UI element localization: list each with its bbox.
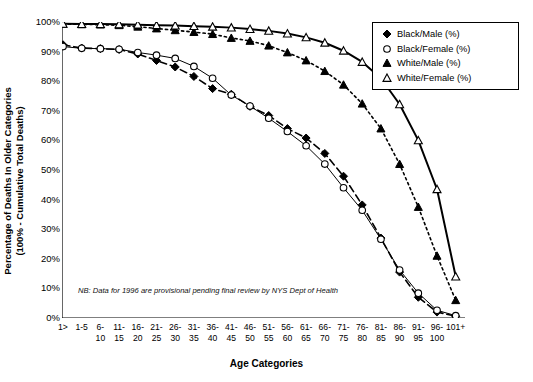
data-point-marker <box>153 22 161 29</box>
data-point-marker <box>97 45 104 52</box>
data-point-marker <box>135 49 142 56</box>
data-point-marker <box>415 290 422 297</box>
data-point-marker <box>228 92 235 99</box>
data-point-marker <box>115 22 123 28</box>
filled-diamond-icon <box>379 28 395 40</box>
data-point-marker <box>396 267 403 274</box>
data-point-marker <box>78 22 86 27</box>
legend-item-label: White/Female (%) <box>395 73 471 83</box>
data-point-marker <box>414 136 422 143</box>
legend-item: Black/Female (%) <box>379 42 514 57</box>
data-point-marker <box>359 207 366 214</box>
data-point-marker <box>62 43 66 50</box>
legend-item: White/Female (%) <box>379 71 514 86</box>
legend-item: White/Male (%) <box>379 56 514 71</box>
x-axis-tick-labels: 1>1-56-1011-1516-2021-2526-3031-3536-404… <box>0 322 533 356</box>
data-point-marker <box>452 312 459 318</box>
filled-triangle-icon <box>379 57 395 69</box>
y-axis-tick-label: 10% <box>26 283 60 293</box>
chart-note: NB: Data for 1996 are provisional pendin… <box>78 286 338 295</box>
data-point-marker <box>265 115 272 122</box>
legend-item-label: Black/Male (%) <box>395 29 460 39</box>
data-point-marker <box>378 236 385 243</box>
data-point-marker <box>190 72 198 80</box>
data-point-marker <box>134 22 142 28</box>
data-point-marker <box>396 160 404 167</box>
y-axis-tick-label: 30% <box>26 224 60 234</box>
data-point-marker <box>414 203 422 210</box>
open-circle-icon <box>379 43 395 55</box>
data-point-marker <box>302 56 310 63</box>
x-tick-line1: 101+ <box>441 322 471 333</box>
x-axis-title: Age Categories <box>0 358 533 369</box>
data-point-marker <box>433 185 441 192</box>
data-point-marker <box>283 48 291 55</box>
y-axis-tick-label: 90% <box>26 47 60 57</box>
data-point-marker <box>209 85 217 93</box>
chart-container: Percentage of Deaths In Older Categories… <box>0 0 533 382</box>
chart-legend: Black/Male (%)Black/Female (%)White/Male… <box>372 22 519 90</box>
y-axis-tick-label: 20% <box>26 254 60 264</box>
x-tick-line2: 100 <box>422 333 452 344</box>
data-point-marker <box>452 296 460 303</box>
data-point-marker <box>153 52 160 59</box>
y-axis-tick-label: 50% <box>26 165 60 175</box>
y-axis-tick-label: 60% <box>26 135 60 145</box>
legend-item-label: White/Male (%) <box>395 58 461 68</box>
data-point-marker <box>171 63 179 71</box>
y-axis-tick-label: 70% <box>26 106 60 116</box>
data-point-marker <box>434 307 441 314</box>
data-point-marker <box>209 75 216 82</box>
x-axis-tick-label: 101+ <box>441 322 471 333</box>
y-axis-tick-label: 40% <box>26 195 60 205</box>
y-axis-tick-label: 100% <box>26 17 60 27</box>
data-point-marker <box>358 58 366 65</box>
data-point-marker <box>322 161 329 168</box>
data-point-marker <box>247 103 254 110</box>
legend-item-label: Black/Female (%) <box>395 44 470 54</box>
y-axis-tick-label: 80% <box>26 76 60 86</box>
y-axis-title-line1: Percentage of Deaths In Older Categories <box>2 56 14 306</box>
data-point-marker <box>303 142 310 149</box>
data-point-marker <box>321 67 329 74</box>
data-point-marker <box>433 252 441 259</box>
data-point-marker <box>452 273 460 280</box>
data-point-marker <box>78 45 85 52</box>
open-triangle-icon <box>379 72 395 84</box>
data-point-marker <box>191 63 198 70</box>
legend-item: Black/Male (%) <box>379 27 514 42</box>
data-point-marker <box>284 128 291 135</box>
data-point-marker <box>96 22 104 27</box>
data-point-marker <box>116 46 123 53</box>
data-point-marker <box>227 34 235 41</box>
data-point-marker <box>340 184 347 191</box>
data-point-marker <box>172 55 179 62</box>
